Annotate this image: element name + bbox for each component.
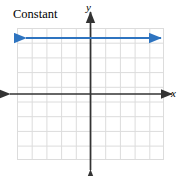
graph-canvas <box>0 0 183 176</box>
constant-function-graph: Constant x y <box>0 0 183 176</box>
y-axis-label: y <box>86 2 91 13</box>
page-title: Constant <box>13 8 57 21</box>
x-axis-label: x <box>171 88 176 99</box>
